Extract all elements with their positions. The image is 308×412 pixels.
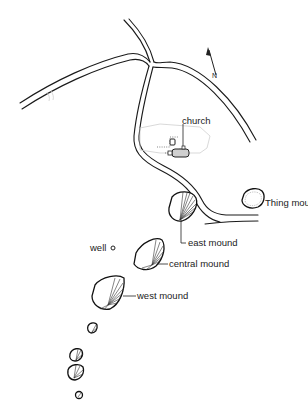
central-mound-label: central mound xyxy=(169,258,229,269)
central-mound xyxy=(134,239,168,270)
north-arrow-icon: N xyxy=(206,47,217,79)
church-building xyxy=(172,149,189,157)
east-mound-leader xyxy=(181,221,186,243)
road-south-end xyxy=(205,221,258,224)
site-map: N church Thing mound east mound xyxy=(0,0,308,412)
church-tower xyxy=(182,146,185,149)
small-mound-1 xyxy=(88,323,98,333)
east-mound-label: east mound xyxy=(188,237,238,248)
thing-mound xyxy=(242,189,264,208)
road-west-upper xyxy=(20,53,150,103)
road-east-lower xyxy=(153,67,250,142)
road-south-right xyxy=(139,67,258,215)
west-mound xyxy=(92,276,136,310)
east-mound xyxy=(169,192,197,243)
church-outbuilding xyxy=(170,139,175,145)
small-mound-2 xyxy=(70,349,83,361)
roads xyxy=(20,19,258,224)
well-label: well xyxy=(89,242,106,253)
west-mound-label: west mound xyxy=(136,290,188,301)
church-site xyxy=(140,124,210,157)
road-east-upper xyxy=(154,62,256,140)
well-icon xyxy=(111,246,115,250)
svg-text:N: N xyxy=(212,72,217,79)
road-north-left xyxy=(124,20,150,62)
road-west-lower xyxy=(22,59,149,109)
church-porch xyxy=(168,151,172,155)
church-label: church xyxy=(182,115,211,126)
thing-mound-label: Thing mound xyxy=(265,197,308,208)
small-mound-3 xyxy=(68,365,84,380)
small-mound-4 xyxy=(76,392,83,399)
